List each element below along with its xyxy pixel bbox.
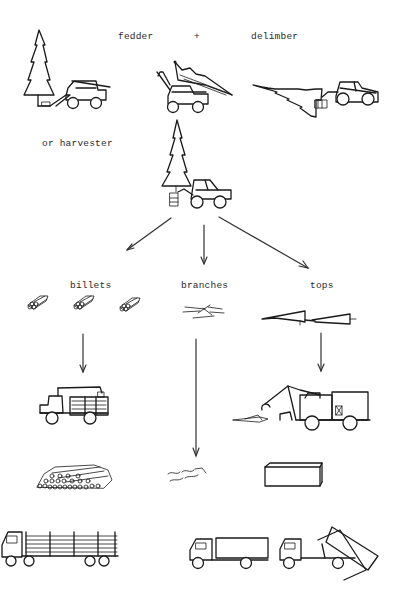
harvester-with-tree-icon (162, 120, 231, 208)
log-pile-icon (37, 465, 112, 489)
tops-forwarder-with-bin-icon (233, 386, 370, 430)
billets-bundles-icon (28, 296, 140, 311)
tops-icon (262, 311, 356, 325)
split-arrows (127, 217, 308, 268)
container-truck-icon (190, 538, 268, 569)
branches-icon (183, 305, 224, 318)
dump-truck-tipping-icon (280, 527, 378, 580)
arrow-to-billets (127, 218, 171, 250)
container-box-icon (265, 463, 322, 486)
log-truck-trailer-icon (2, 532, 118, 566)
delimber-processing-tree-icon (253, 82, 378, 117)
line-art (0, 0, 401, 599)
scattered-branches-icon (168, 468, 206, 481)
forwarder-loaded-icon (40, 387, 108, 424)
diagram-canvas: fedder + delimber or harvester billets b… (0, 0, 401, 599)
arrow-to-tops (219, 217, 308, 268)
feller-carrying-tree-icon (157, 61, 232, 113)
tree-with-feller-icon (24, 30, 110, 109)
